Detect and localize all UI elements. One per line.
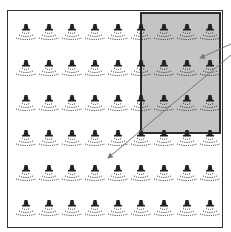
diagram [0,0,231,232]
leader-arrow-1 [200,44,231,58]
leader-arrow-2 [108,55,231,158]
leader-arrows [0,0,231,232]
